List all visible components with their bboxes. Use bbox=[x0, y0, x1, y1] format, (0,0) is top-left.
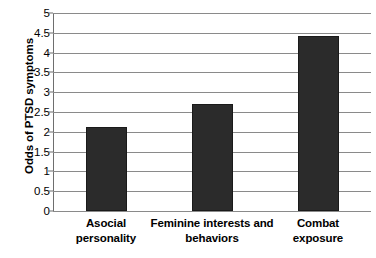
y-axis-tick-mark bbox=[48, 171, 53, 172]
bar bbox=[192, 104, 233, 211]
x-axis-label-line: Combat bbox=[256, 216, 376, 231]
y-axis-tick-mark bbox=[48, 191, 53, 192]
y-axis-tick-label: 2 bbox=[20, 126, 50, 138]
y-axis-tick-labels: 54.543.532.521.510.50 bbox=[20, 13, 50, 211]
bar bbox=[86, 127, 127, 211]
y-axis-tick-label: 3 bbox=[20, 86, 50, 98]
gridline bbox=[53, 211, 371, 212]
y-axis-tick-label: 1.5 bbox=[20, 146, 50, 158]
y-axis-tick-mark bbox=[48, 131, 53, 132]
plot-area bbox=[53, 13, 371, 211]
y-axis-tick-mark bbox=[48, 112, 53, 113]
y-axis-tick-mark bbox=[48, 92, 53, 93]
y-axis-tick-mark bbox=[48, 151, 53, 152]
x-axis-category-labels: AsocialpersonalityFeminine interests and… bbox=[53, 216, 371, 258]
y-axis-tick-label: 0.5 bbox=[20, 185, 50, 197]
bar-series bbox=[53, 13, 371, 211]
x-axis-label-line: exposure bbox=[256, 231, 376, 246]
bar-chart: Odds of PTSD symptoms 54.543.532.521.510… bbox=[0, 0, 376, 258]
y-axis-tick-label: 4 bbox=[20, 47, 50, 59]
y-axis-tick-label: 5 bbox=[20, 7, 50, 19]
x-axis-category-label: Combatexposure bbox=[256, 216, 376, 246]
y-axis-tick-mark bbox=[48, 52, 53, 53]
y-axis-tick-label: 1 bbox=[20, 165, 50, 177]
y-axis-tick-mark bbox=[48, 72, 53, 73]
y-axis-tick-label: 4.5 bbox=[20, 27, 50, 39]
y-axis-tick-label: 2.5 bbox=[20, 106, 50, 118]
y-axis-tick-mark bbox=[48, 32, 53, 33]
y-axis-tick-label: 3.5 bbox=[20, 66, 50, 78]
y-axis-tick-mark bbox=[48, 211, 53, 212]
y-axis-tick-mark bbox=[48, 13, 53, 14]
bar bbox=[298, 36, 339, 211]
